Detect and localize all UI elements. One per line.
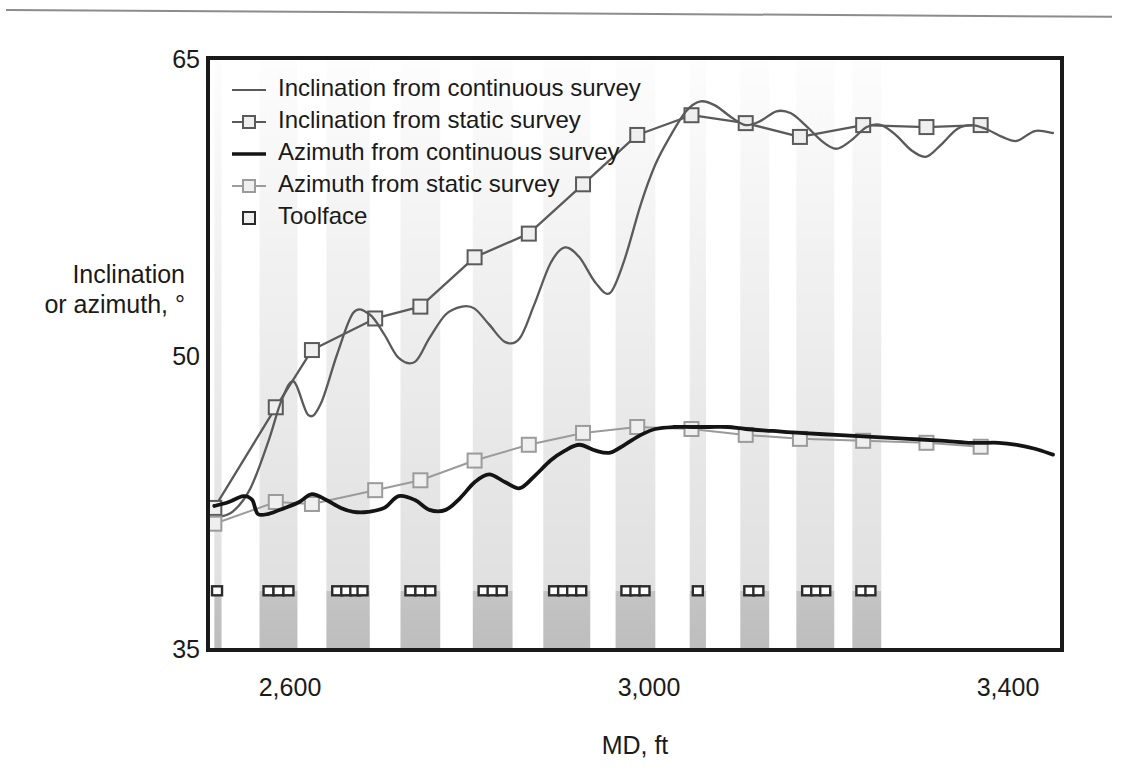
data-point-marker: [522, 438, 536, 452]
toolface-marker: [358, 586, 368, 595]
shaded-band-upper: [852, 58, 881, 591]
chart-canvas: 65 50 35 Inclination or azimuth, ° 2,600…: [0, 0, 1121, 783]
shaded-band-lower: [616, 591, 656, 650]
legend-label: Inclination from continuous survey: [278, 74, 641, 101]
y-axis-title-line2: or azimuth, °: [44, 290, 185, 318]
toolface-marker: [283, 586, 293, 595]
data-point-marker: [413, 473, 427, 487]
legend-square-swatch: [243, 212, 255, 224]
legend-square-swatch: [243, 116, 255, 128]
toolface-marker: [865, 586, 875, 595]
ytick-label-35: 35: [172, 635, 200, 663]
data-point-marker: [576, 177, 590, 191]
shaded-band-lower: [260, 591, 298, 650]
shaded-band-lower: [214, 591, 221, 650]
legend-square-swatch: [243, 180, 255, 192]
shaded-band-upper: [690, 58, 706, 591]
shaded-band-lower: [326, 591, 369, 650]
data-point-marker: [269, 495, 283, 509]
toolface-marker: [639, 586, 649, 595]
toolface-marker: [212, 586, 222, 595]
data-point-marker: [305, 497, 319, 511]
toolface-marker: [693, 586, 703, 595]
xtick-label-3400: 3,400: [977, 673, 1040, 701]
data-point-marker: [368, 483, 382, 497]
figure-root: 65 50 35 Inclination or azimuth, ° 2,600…: [0, 0, 1121, 783]
shaded-band-lower: [796, 591, 834, 650]
data-point-marker: [468, 250, 482, 264]
xtick-label-3000: 3,000: [618, 673, 681, 701]
data-point-marker: [684, 422, 698, 436]
xtick-label-2600: 2,600: [259, 673, 322, 701]
data-point-marker: [305, 343, 319, 357]
data-point-marker: [522, 227, 536, 241]
shaded-band-lower: [690, 591, 706, 650]
data-point-marker: [919, 120, 933, 134]
shaded-band-lower: [543, 591, 590, 650]
data-point-marker: [630, 128, 644, 142]
toolface-marker: [415, 586, 425, 595]
toolface-marker: [576, 586, 586, 595]
shaded-band-upper: [740, 58, 769, 591]
x-axis-title: MD, ft: [602, 731, 669, 759]
toolface-marker: [264, 586, 274, 595]
data-point-marker: [630, 420, 644, 434]
toolface-marker: [425, 586, 435, 595]
data-point-marker: [576, 426, 590, 440]
y-axis-title-line1: Inclination: [72, 260, 185, 288]
shaded-band-lower: [740, 591, 769, 650]
data-point-marker: [413, 300, 427, 314]
ytick-label-50: 50: [172, 342, 200, 370]
toolface-marker: [273, 586, 283, 595]
toolface-marker: [753, 586, 763, 595]
toolface-marker: [405, 586, 415, 595]
data-point-marker: [793, 130, 807, 144]
toolface-marker: [820, 586, 830, 595]
shaded-band-lower: [473, 591, 513, 650]
legend-label: Azimuth from static survey: [278, 170, 559, 197]
shaded-band-lower: [400, 591, 440, 650]
shaded-band-lower: [852, 591, 881, 650]
legend-label: Azimuth from continuous survey: [278, 138, 619, 165]
ytick-label-65: 65: [172, 45, 200, 73]
data-point-marker: [468, 454, 482, 468]
legend-label: Toolface: [278, 202, 367, 229]
legend-label: Inclination from static survey: [278, 106, 581, 133]
toolface-marker: [497, 586, 507, 595]
